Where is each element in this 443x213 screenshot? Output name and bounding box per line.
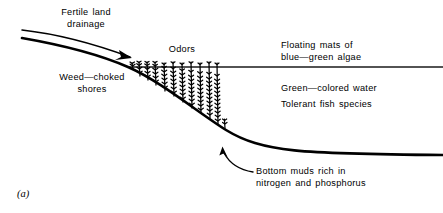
label-odors: Odors [158, 44, 206, 56]
aquatic-plant-icon [171, 62, 177, 96]
aquatic-plant-icon [198, 63, 204, 113]
aquatic-plant-icon [215, 63, 221, 124]
label-bottom-muds: Bottom muds rich in nitrogen and phospho… [256, 166, 416, 189]
aquatic-weed-bed [130, 61, 227, 128]
aquatic-plant-icon [207, 62, 213, 118]
label-weed-choked-shores: Weed—choked shores [44, 72, 140, 95]
drainage-arrow-icon [22, 30, 132, 60]
bottom-muds-pointer-icon [219, 147, 253, 173]
label-tolerant-fish-species: Tolerant fish species [281, 99, 417, 111]
label-floating-mats-blue-green-algae: Floating mats of blue—green algae [281, 40, 407, 63]
eutrophic-lake-diagram: Fertile land drainage Weed—choked shores… [0, 0, 443, 213]
label-fertile-land-drainage: Fertile land drainage [39, 7, 133, 30]
aquatic-plant-icon [189, 62, 195, 108]
label-green-colored-water: Green—colored water [281, 83, 417, 95]
aquatic-plant-icon [180, 63, 186, 102]
panel-letter: (a) [17, 188, 29, 199]
